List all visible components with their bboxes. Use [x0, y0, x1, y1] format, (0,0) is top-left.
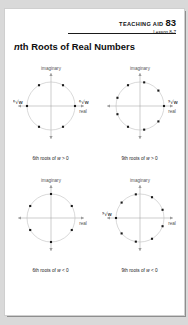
diagram-cell-3: imaginaryreal⁹√w 9th roots of w < 0 — [95, 167, 184, 279]
axis-arrowhead — [138, 185, 141, 188]
axis-arrowhead — [18, 104, 21, 107]
header-rule — [68, 33, 176, 34]
root-value-label: ⁹√w — [102, 211, 113, 217]
caption-suffix: > 0 — [61, 156, 69, 161]
root-point — [70, 205, 72, 207]
root-point — [126, 84, 128, 86]
complex-plane-2: imaginaryreal — [13, 171, 89, 255]
diagram-cell-1: imaginaryreal⁹√w 9th roots of w > 0 — [95, 55, 184, 167]
axis-arrowhead — [107, 216, 110, 219]
diagram-caption-0: 6th roots of w > 0 — [6, 156, 95, 161]
root-point — [157, 90, 159, 92]
axis-arrowhead — [49, 73, 52, 76]
axis-arrowhead — [81, 216, 84, 219]
root-point — [161, 209, 163, 211]
axis-arrowhead — [138, 73, 141, 76]
real-axis-label: real — [168, 221, 176, 226]
diagram-row-top: imaginaryreal⁶√w-⁶√w 6th roots of w > 0 … — [5, 55, 184, 167]
root-point — [116, 113, 118, 115]
root-value-label: ⁹√w — [168, 99, 178, 105]
page-title: nth Roots of Real Numbers — [14, 41, 135, 52]
root-point — [70, 229, 72, 231]
root-point — [61, 126, 63, 128]
root-point — [49, 193, 51, 195]
root-point — [37, 84, 39, 86]
complex-plane-svg: imaginaryreal⁹√w — [102, 59, 178, 143]
diagram-caption-3: 9th roots of w < 0 — [95, 268, 184, 273]
complex-plane-0: imaginaryreal⁶√w-⁶√w — [13, 59, 89, 143]
caption-suffix: > 0 — [150, 156, 158, 161]
imaginary-axis-label: imaginary — [130, 178, 151, 183]
axis-arrowhead — [49, 136, 52, 139]
caption-suffix: < 0 — [61, 268, 69, 273]
root-point — [73, 105, 75, 107]
axis-arrowhead — [170, 216, 173, 219]
complex-plane-1: imaginaryreal⁹√w — [102, 59, 178, 143]
root-point — [37, 126, 39, 128]
root-point — [25, 105, 27, 107]
axis-arrowhead — [170, 104, 173, 107]
teaching-aid-page: TEACHING AID 83 Lesson 8-7 nth Roots of … — [4, 8, 185, 316]
diagram-cell-2: imaginaryreal 6th roots of w < 0 — [6, 167, 95, 279]
root-point — [143, 129, 145, 131]
root-point — [150, 238, 152, 240]
root-point — [114, 217, 116, 219]
axis-arrowhead — [49, 248, 52, 251]
root-value-label: ⁶√w — [79, 99, 89, 105]
teaching-aid-number: 83 — [165, 17, 176, 28]
axis-arrowhead — [107, 104, 110, 107]
axis-arrowhead — [18, 216, 21, 219]
caption-suffix: < 0 — [150, 268, 158, 273]
root-point — [162, 105, 164, 107]
root-point — [161, 225, 163, 227]
teaching-aid-heading: TEACHING AID 83 — [119, 18, 176, 28]
root-point — [157, 120, 159, 122]
root-point — [120, 202, 122, 204]
caption-prefix: 9th roots of — [121, 268, 146, 273]
caption-prefix: 6th roots of — [32, 268, 57, 273]
diagram-row-bottom: imaginaryreal 6th roots of w < 0 imagina… — [5, 167, 184, 279]
caption-prefix: 9th roots of — [121, 156, 146, 161]
root-point — [29, 229, 31, 231]
root-point — [61, 84, 63, 86]
root-point — [143, 81, 145, 83]
diagram-grid: imaginaryreal⁶√w-⁶√w 6th roots of w > 0 … — [5, 55, 184, 279]
root-point — [134, 241, 136, 243]
imaginary-axis-label: imaginary — [41, 178, 62, 183]
diagram-caption-2: 6th roots of w < 0 — [6, 268, 95, 273]
caption-prefix: 6th roots of — [32, 156, 57, 161]
root-point — [126, 126, 128, 128]
teaching-aid-label: TEACHING AID — [119, 21, 163, 27]
root-value-label: -⁶√w — [13, 99, 24, 105]
complex-plane-svg: imaginaryreal⁹√w — [102, 171, 178, 255]
real-axis-label: real — [79, 109, 87, 114]
imaginary-axis-label: imaginary — [41, 66, 62, 71]
page-title-rest: th Roots of Real Numbers — [20, 41, 135, 52]
root-point — [29, 205, 31, 207]
real-axis-label: real — [168, 109, 176, 114]
root-point — [120, 232, 122, 234]
diagram-cell-0: imaginaryreal⁶√w-⁶√w 6th roots of w > 0 — [6, 55, 95, 167]
axis-arrowhead — [81, 104, 84, 107]
complex-plane-3: imaginaryreal⁹√w — [102, 171, 178, 255]
root-point — [150, 196, 152, 198]
axis-arrowhead — [138, 136, 141, 139]
root-point — [134, 193, 136, 195]
root-point — [116, 97, 118, 99]
root-point — [49, 241, 51, 243]
axis-arrowhead — [49, 185, 52, 188]
real-axis-label: real — [79, 221, 87, 226]
complex-plane-svg: imaginaryreal⁶√w-⁶√w — [13, 59, 89, 143]
axis-arrowhead — [138, 248, 141, 251]
complex-plane-svg: imaginaryreal — [13, 171, 89, 255]
imaginary-axis-label: imaginary — [130, 66, 151, 71]
diagram-caption-1: 9th roots of w > 0 — [95, 156, 184, 161]
